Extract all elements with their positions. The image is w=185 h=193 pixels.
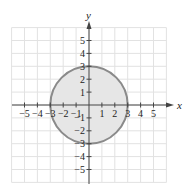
y-tick-label: −3 bbox=[74, 138, 85, 149]
x-tick-label: −4 bbox=[32, 108, 43, 119]
y-tick-label: 1 bbox=[80, 87, 85, 98]
x-tick-label: −3 bbox=[45, 108, 56, 119]
y-tick-label: 5 bbox=[80, 35, 85, 46]
x-axis-label: x bbox=[176, 99, 182, 111]
x-axis-arrow-icon bbox=[166, 103, 174, 108]
x-tick-label: −5 bbox=[19, 108, 30, 119]
x-tick-label: 5 bbox=[151, 108, 156, 119]
coordinate-plane: xy −5−4−3−2−112345−5−4−3−2−112345 bbox=[0, 0, 185, 193]
y-axis-arrow-icon bbox=[87, 21, 92, 29]
x-tick-label: 3 bbox=[125, 108, 130, 119]
x-tick-label: −2 bbox=[58, 108, 69, 119]
y-tick-label: −4 bbox=[74, 151, 85, 162]
y-tick-label: −5 bbox=[74, 164, 85, 175]
y-tick-label: 4 bbox=[80, 48, 85, 59]
y-axis-label: y bbox=[85, 9, 91, 21]
y-tick-label: −2 bbox=[74, 125, 85, 136]
x-tick-label: 1 bbox=[99, 108, 104, 119]
y-tick-label: −1 bbox=[74, 112, 85, 123]
y-tick-label: 3 bbox=[80, 61, 85, 72]
y-tick-label: 2 bbox=[80, 74, 85, 85]
x-tick-label: 4 bbox=[138, 108, 143, 119]
x-tick-label: 2 bbox=[112, 108, 117, 119]
